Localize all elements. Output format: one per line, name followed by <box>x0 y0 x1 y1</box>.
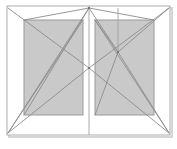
elevation-drawing <box>0 0 177 149</box>
right-hub-node-marker <box>117 51 119 53</box>
diagram-canvas <box>0 0 177 149</box>
center-cross-node-marker <box>88 67 90 69</box>
apex-node-marker <box>88 7 90 9</box>
